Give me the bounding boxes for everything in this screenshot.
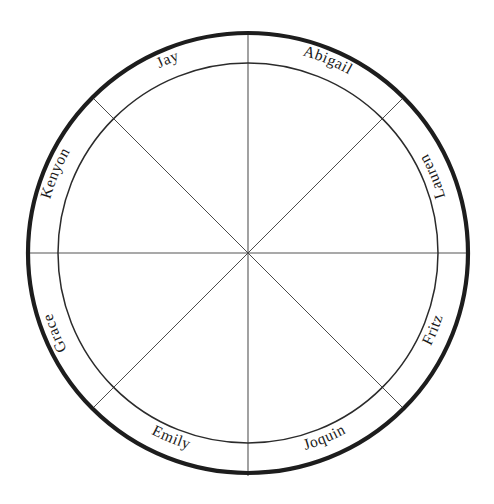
label-emily: Emily (150, 421, 193, 452)
wheel-diagram: Abigail Jay Kenyon Grace Emily Joquin Fr… (0, 0, 494, 504)
label-emily-text: Emily (150, 421, 193, 452)
label-lauren-text: Lauren (415, 152, 448, 201)
label-joquin-text: Joquin (301, 420, 348, 452)
label-lauren: Lauren (415, 152, 448, 201)
wheel-canvas: Abigail Jay Kenyon Grace Emily Joquin Fr… (0, 0, 494, 504)
label-joquin: Joquin (301, 420, 348, 452)
